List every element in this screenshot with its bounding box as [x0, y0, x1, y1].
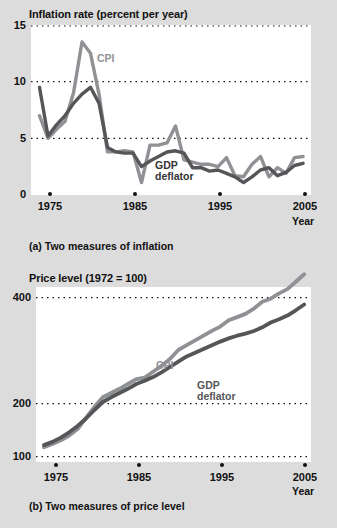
panel-a-x-axis-name: Year — [292, 215, 314, 227]
panel-b-xtick-dot-1995 — [220, 463, 224, 467]
panel-b-ytick-200: 200 — [2, 397, 31, 409]
panel-b-gdp-deflator-label: GDP deflator — [197, 380, 236, 402]
panel-a-xtick-dot-2005 — [303, 192, 307, 196]
panel-a-ytick-15: 15 — [8, 19, 26, 31]
panel-b-xtick-dot-1975 — [54, 463, 58, 467]
panel-b-caption: (b) Two measures of price level — [29, 500, 185, 512]
panel-b-xtick-1985: 1985 — [116, 471, 162, 483]
panel-b-cpi-label: CPI — [156, 360, 174, 371]
panel-a-ytick-10: 10 — [8, 75, 26, 87]
panel-a-xtick-1975: 1975 — [27, 200, 73, 212]
panel-b-price-level: Price level (1972 = 100) 400 200 100 197… — [0, 264, 337, 528]
panel-b-xtick-dot-1985 — [137, 463, 141, 467]
panel-a-xtick-1995: 1995 — [197, 200, 243, 212]
panel-b-plot-area — [36, 287, 311, 462]
panel-b-ytick-100: 100 — [2, 450, 31, 462]
panel-a-inflation-rate: Inflation rate (percent per year) 15 10 … — [0, 0, 337, 264]
panel-a-gdp-deflator-label: GDP deflator — [155, 160, 194, 182]
panel-a-xtick-1985: 1985 — [112, 200, 158, 212]
panel-a-xtick-dot-1985 — [133, 192, 137, 196]
panel-a-xtick-dot-1975 — [48, 192, 52, 196]
panel-a-gdp-deflator-label-line2: deflator — [155, 170, 194, 182]
panel-a-cpi-label: CPI — [97, 53, 115, 64]
panel-b-xtick-2005: 2005 — [282, 471, 328, 483]
panel-b-plot-svg — [36, 287, 311, 462]
panel-b-xtick-1975: 1975 — [33, 471, 79, 483]
panel-b-xtick-dot-2005 — [303, 463, 307, 467]
panel-a-ytick-0: 0 — [8, 188, 26, 200]
panel-b-gdp-deflator-label-line2: deflator — [197, 390, 236, 402]
panel-b-x-axis-name: Year — [292, 485, 314, 497]
panel-b-title: Price level (1972 = 100) — [29, 272, 147, 284]
panel-a-caption: (a) Two measures of inflation — [29, 240, 174, 252]
panel-b-xtick-1995: 1995 — [199, 471, 245, 483]
panel-a-title: Inflation rate (percent per year) — [29, 8, 188, 20]
panel-a-xtick-2005: 2005 — [282, 200, 328, 212]
figure-two-measures-of-inflation: Inflation rate (percent per year) 15 10 … — [0, 0, 337, 528]
panel-a-ytick-5: 5 — [8, 132, 26, 144]
panel-b-ytick-400: 400 — [2, 291, 31, 303]
panel-a-xtick-dot-1995 — [218, 192, 222, 196]
